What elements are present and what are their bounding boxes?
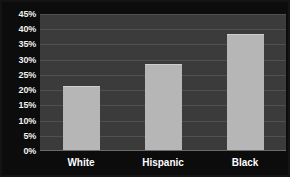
y-axis-tick-label: 40% [19, 24, 36, 34]
y-axis-tick-label: 15% [19, 100, 36, 110]
bar [63, 86, 100, 151]
bar-chart: 0%5%10%15%20%25%30%35%40%45% WhiteHispan… [0, 0, 290, 177]
gridline [40, 14, 286, 15]
gridline [40, 29, 286, 30]
x-axis-tick-label: White [67, 157, 94, 168]
x-axis-tick-label: Hispanic [142, 157, 184, 168]
x-axis: WhiteHispanicBlack [40, 152, 286, 177]
y-axis-tick-label: 35% [19, 39, 36, 49]
axis-baseline [40, 150, 286, 151]
y-axis-tick-label: 10% [19, 116, 36, 126]
y-axis-tick-label: 30% [19, 55, 36, 65]
y-axis-tick-label: 5% [23, 131, 36, 141]
y-axis-tick-label: 25% [19, 70, 36, 80]
bar [145, 64, 182, 151]
y-axis: 0%5%10%15%20%25%30%35%40%45% [2, 2, 40, 157]
plot-area [40, 14, 286, 151]
bar [227, 34, 264, 151]
x-axis-tick-label: Black [232, 157, 259, 168]
y-axis-tick-label: 0% [23, 146, 36, 156]
y-axis-tick-label: 20% [19, 85, 36, 95]
y-axis-tick-label: 45% [19, 9, 36, 19]
